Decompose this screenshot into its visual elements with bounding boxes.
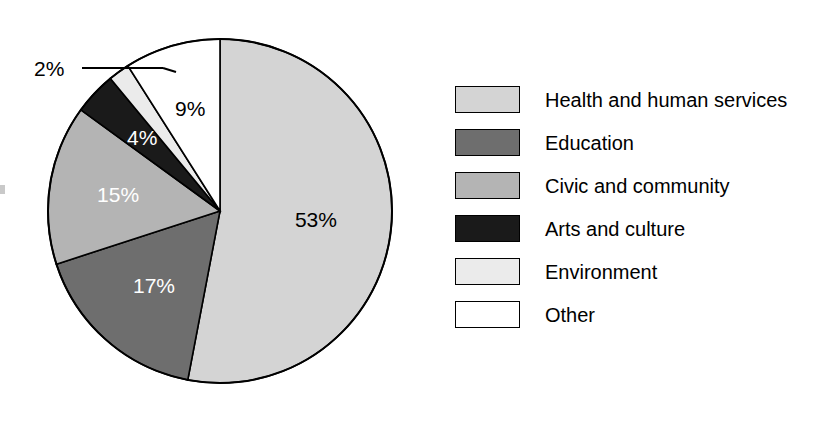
- legend-item[interactable]: Arts and culture: [455, 207, 800, 250]
- legend-label-environment: Environment: [545, 261, 657, 283]
- legend-swatch-other: [455, 301, 520, 328]
- legend-item[interactable]: Health and human services: [455, 78, 800, 121]
- pie-chart-area: 53%17%15%4%9% 2%: [0, 0, 440, 426]
- chart-legend: Health and human services Education Civi…: [455, 78, 800, 336]
- legend-label-education: Education: [545, 132, 634, 154]
- pie-slices-group: [48, 39, 392, 383]
- pie-slice-value-health-and-human-services: 53%: [295, 208, 337, 231]
- legend-label-other: Other: [545, 304, 595, 326]
- legend-item[interactable]: Other: [455, 293, 800, 336]
- pie-chart-figure: 53%17%15%4%9% 2% Health and human servic…: [0, 0, 816, 426]
- callout-label-environment: 2%: [34, 57, 64, 80]
- legend-swatch-education: [455, 129, 520, 156]
- pie-chart-svg: 53%17%15%4%9% 2%: [0, 0, 440, 426]
- legend-label-arts-and-culture: Arts and culture: [545, 218, 685, 240]
- legend-label-health-and-human-services: Health and human services: [545, 89, 787, 111]
- legend-swatch-arts-and-culture: [455, 215, 520, 242]
- legend-item[interactable]: Environment: [455, 250, 800, 293]
- pie-slice-value-education: 17%: [133, 274, 175, 297]
- legend-swatch-civic-and-community: [455, 172, 520, 199]
- pie-slice-value-other: 9%: [175, 97, 205, 120]
- legend-swatch-health-and-human-services: [455, 86, 520, 113]
- pie-slice-value-civic-and-community: 15%: [97, 183, 139, 206]
- legend-swatch-environment: [455, 258, 520, 285]
- legend-label-civic-and-community: Civic and community: [545, 175, 730, 197]
- legend-item[interactable]: Education: [455, 121, 800, 164]
- legend-item[interactable]: Civic and community: [455, 164, 800, 207]
- pie-slice-value-arts-and-culture: 4%: [127, 126, 157, 149]
